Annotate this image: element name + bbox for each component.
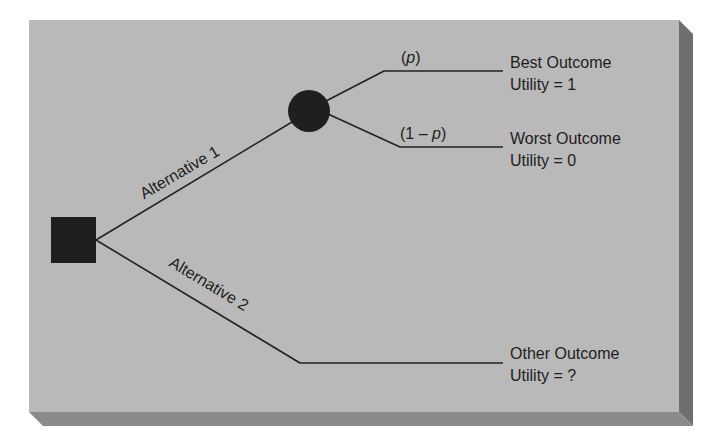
other-outcome-label: Other Outcome Utility = ? (510, 343, 619, 387)
other-outcome-utility: Utility = ? (510, 365, 619, 387)
decision-tree-figure: Alternative 1 Alternative 2 (p) (1 – p) … (0, 0, 724, 438)
other-outcome-name: Other Outcome (510, 343, 619, 365)
panel-shadow-right (679, 20, 693, 426)
prob-var-p: p (432, 125, 441, 142)
best-outcome-label: Best Outcome Utility = 1 (510, 52, 611, 96)
panel-shadow-bottom (29, 412, 693, 426)
upper-branch-probability-label: (p) (401, 48, 421, 67)
prob-close: ) (415, 49, 420, 66)
prob-close: ) (441, 125, 446, 142)
worst-outcome-name: Worst Outcome (510, 128, 621, 150)
decision-node-square-icon (51, 217, 96, 263)
worst-outcome-utility: Utility = 0 (510, 150, 621, 172)
lower-branch-probability-label: (1 – p) (400, 124, 446, 143)
prob-var-p: p (406, 49, 415, 66)
best-outcome-name: Best Outcome (510, 52, 611, 74)
best-outcome-utility: Utility = 1 (510, 74, 611, 96)
chance-node-circle-icon (288, 90, 330, 132)
prob-open: (1 – (400, 125, 432, 142)
worst-outcome-label: Worst Outcome Utility = 0 (510, 128, 621, 172)
